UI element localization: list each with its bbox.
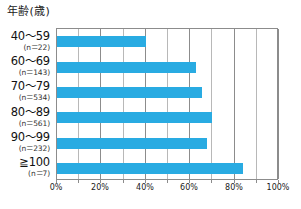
category-label: ≧100(n＝7): [19, 156, 50, 178]
category-label-range: 90〜99: [11, 131, 50, 143]
category-label: 80〜89(n＝561): [11, 106, 50, 128]
category-label-count: (n＝534): [11, 93, 50, 102]
bar: [57, 163, 243, 174]
category-label-count: (n＝143): [11, 68, 50, 77]
gridline-100: [278, 29, 279, 179]
category-label-range: 80〜89: [11, 106, 50, 118]
x-axis-tick-labels: 0%20%40%60%80%100%: [56, 183, 278, 197]
bar: [57, 36, 146, 47]
bar: [57, 62, 196, 73]
category-label-range: 60〜69: [11, 55, 50, 67]
category-label-range: ≧100: [19, 156, 50, 168]
category-label: 40〜59(n＝22): [11, 30, 50, 52]
plot-area: [56, 28, 278, 180]
x-tick-label: 60%: [180, 183, 198, 193]
category-label: 90〜99(n＝232): [11, 131, 50, 153]
category-axis-labels: 40〜59(n＝22)60〜69(n＝143)70〜79(n＝534)80〜89…: [0, 28, 53, 180]
bar-chart: 年齢(歳) 40〜59(n＝22)60〜69(n＝143)70〜79(n＝534…: [0, 0, 301, 209]
x-tick-label: 20%: [91, 183, 109, 193]
x-tick-label: 0%: [50, 183, 63, 193]
category-label: 70〜79(n＝534): [11, 80, 50, 102]
category-label-count: (n＝7): [19, 169, 50, 178]
category-label-count: (n＝561): [11, 119, 50, 128]
category-label-range: 70〜79: [11, 80, 50, 92]
category-label-count: (n＝232): [11, 144, 50, 153]
x-tick-label: 40%: [136, 183, 154, 193]
y-axis-title: 年齢(歳): [7, 5, 50, 18]
bar: [57, 112, 212, 123]
x-tick-label: 100%: [267, 183, 290, 193]
bars-layer: [57, 29, 277, 179]
x-tick-label: 80%: [225, 183, 243, 193]
bar: [57, 87, 202, 98]
category-label-range: 40〜59: [11, 30, 50, 42]
category-label: 60〜69(n＝143): [11, 55, 50, 77]
bar: [57, 138, 207, 149]
category-label-count: (n＝22): [11, 43, 50, 52]
